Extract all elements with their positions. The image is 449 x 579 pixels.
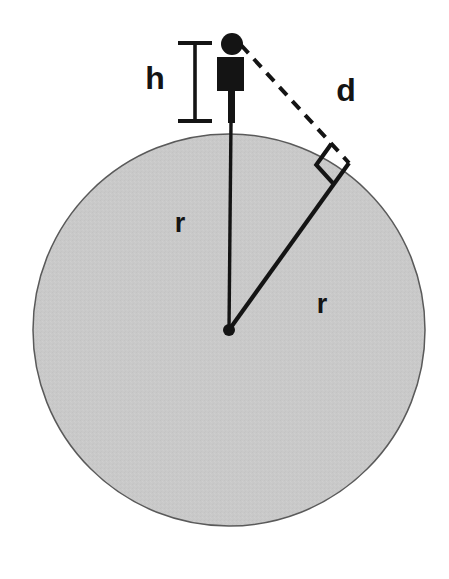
label-distance-d: d [336,72,356,108]
observer-stick-figure [217,33,244,123]
diagram-canvas: h d r r [0,0,449,579]
observer-body [217,57,244,91]
label-radius-vertical-r: r [175,208,186,238]
observer-head [221,33,243,55]
observer-legs [228,90,235,123]
label-height-h: h [145,60,165,96]
horizon-distance-diagram: h d r r [0,0,449,579]
label-radius-diagonal-r: r [317,289,328,319]
circle-center-dot [223,324,235,336]
radius-vertical-line [229,122,231,330]
height-measure-bar [178,42,212,122]
